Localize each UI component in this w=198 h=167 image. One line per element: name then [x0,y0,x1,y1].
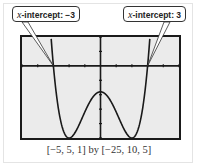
graph-plot [0,0,198,167]
callout-x-intercept-3: x-intercept: 3 [123,6,186,22]
window-caption: [−5, 5, 1] by [−25, 10, 5] [0,144,198,155]
callout-label: -intercept: 3 [132,10,181,20]
callout-label: -intercept: −3 [21,10,75,20]
callout-x-intercept-neg3: x-intercept: −3 [12,6,80,22]
